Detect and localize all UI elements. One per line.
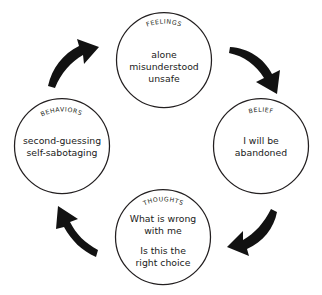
node-belief-line-2: abandoned: [235, 147, 287, 158]
node-feelings[interactable]: FEELINGS alone misunderstood unsafe: [117, 13, 212, 108]
node-belief-line-1: I will be: [243, 135, 279, 146]
node-feelings-line-3: unsafe: [148, 73, 180, 84]
node-thoughts-line-1: What is wrong: [130, 213, 197, 224]
arrow-belief-to-thoughts: [227, 209, 277, 256]
node-feelings-line-1: alone: [151, 49, 177, 60]
node-belief[interactable]: BELIEF I will be abandoned: [214, 99, 309, 194]
node-behaviors-line-1: second-guessing: [23, 135, 101, 146]
arrow-feelings-to-belief-shape: [229, 47, 280, 94]
arrow-feelings-to-belief: [229, 47, 280, 94]
cycle-diagram: FEELINGS alone misunderstood unsafe BELI…: [0, 0, 322, 295]
arrow-behaviors-to-feelings-shape: [48, 39, 99, 88]
node-behaviors-line-2: self-sabotaging: [26, 147, 97, 158]
arrow-thoughts-to-behaviors-shape: [56, 206, 98, 257]
arrow-belief-to-thoughts-shape: [227, 209, 277, 256]
node-thoughts-line-4: right choice: [136, 257, 191, 268]
node-thoughts-line-2: with me: [144, 225, 182, 236]
node-thoughts-line-3: Is this the: [140, 245, 186, 256]
arrow-behaviors-to-feelings: [48, 39, 99, 88]
node-behaviors[interactable]: BEHAVIORS second-guessing self-sabotagin…: [15, 99, 110, 194]
cycle-diagram-canvas: FEELINGS alone misunderstood unsafe BELI…: [0, 0, 322, 295]
node-feelings-line-2: misunderstood: [129, 61, 199, 72]
node-thoughts[interactable]: THOUGHTS What is wrong with me Is this t…: [116, 190, 211, 285]
arrow-thoughts-to-behaviors: [56, 206, 98, 257]
node-feelings-circle: [117, 13, 212, 108]
node-behaviors-circle: [15, 99, 110, 194]
node-thoughts-circle: [116, 190, 211, 285]
